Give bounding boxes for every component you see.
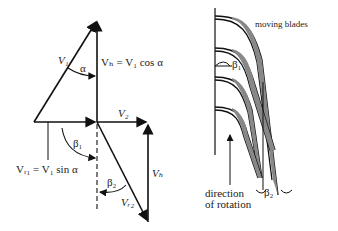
vb-equation-label: Vₕ = V₁ cos α (101, 57, 163, 68)
v1-vector (34, 22, 96, 122)
blades-graphic (215, 8, 292, 195)
beta1-label: β₁ (73, 138, 82, 149)
alpha-label: α (80, 63, 86, 74)
direction-label-line2: of rotation (205, 199, 251, 210)
beta2-label: β₂ (107, 177, 116, 188)
velocity-diagram-graphic (0, 0, 338, 231)
v2-label: V₂ (118, 108, 129, 119)
vb-right-label: Vₕ (152, 168, 163, 179)
moving-blades-label: moving blades (255, 20, 308, 29)
v1-label: V₁ (58, 55, 69, 66)
blade-beta2-label: β₂ (264, 187, 273, 198)
vr2-label: Vᵣ₂ (121, 197, 134, 208)
blade-beta1-label: β₁ (232, 59, 241, 70)
vr1-equation-label: Vᵣ₁ = V₁ sin α (16, 164, 78, 175)
